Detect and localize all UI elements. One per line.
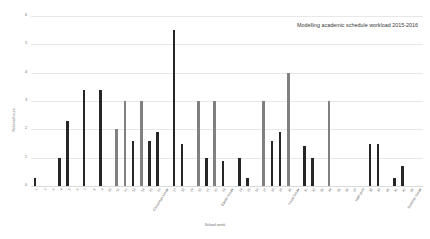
x-tick-label: 24 bbox=[239, 188, 244, 193]
x-tick-label: 20 bbox=[198, 188, 203, 193]
x-tick-label: 22 bbox=[214, 188, 219, 193]
x-tick-label: 19 bbox=[190, 188, 195, 193]
x-tick-label: 38 bbox=[369, 188, 374, 193]
x-tick-label: 11 bbox=[116, 188, 121, 193]
bar bbox=[238, 158, 241, 186]
bar bbox=[66, 121, 69, 186]
bar bbox=[34, 178, 37, 187]
bar bbox=[181, 144, 184, 187]
bar bbox=[303, 146, 306, 186]
y-tick-label: 0 bbox=[25, 184, 27, 188]
bar bbox=[262, 101, 265, 186]
x-tick-label: 1 bbox=[35, 188, 39, 191]
bar-series bbox=[31, 16, 423, 186]
x-tick-label: 18 bbox=[181, 188, 186, 193]
x-tick-label: Christmas break bbox=[153, 188, 170, 212]
bar bbox=[140, 101, 143, 186]
bar bbox=[401, 166, 404, 186]
x-tick-label: 23 bbox=[222, 188, 227, 193]
y-tick-label: 2 bbox=[25, 128, 27, 132]
bar bbox=[205, 158, 208, 186]
x-tick-label: 14 bbox=[141, 188, 146, 193]
x-tick-label: 42 bbox=[402, 188, 407, 193]
x-tick-label: 4 bbox=[60, 188, 64, 191]
bar bbox=[369, 144, 372, 187]
x-tick-label: 26 bbox=[255, 188, 260, 193]
x-tick-label: 39 bbox=[377, 188, 382, 193]
x-tick-label: 33 bbox=[320, 188, 325, 193]
bar bbox=[156, 132, 159, 186]
x-tick-label: 17 bbox=[173, 188, 178, 193]
bar bbox=[246, 178, 249, 187]
y-tick-label: 3 bbox=[25, 99, 27, 103]
y-tick-label: 4 bbox=[25, 71, 27, 75]
bar bbox=[83, 90, 86, 186]
bar bbox=[99, 90, 102, 186]
x-tick-label: 28 bbox=[271, 188, 276, 193]
bar bbox=[393, 178, 396, 187]
x-tick-label: 15 bbox=[149, 188, 154, 193]
plot-area bbox=[31, 16, 423, 186]
bar bbox=[197, 101, 200, 186]
x-tick-label: 27 bbox=[263, 188, 268, 193]
bar bbox=[132, 141, 135, 186]
x-tick-label: 30 bbox=[288, 188, 293, 193]
x-tick-label: 5 bbox=[68, 188, 72, 191]
x-tick-label: 32 bbox=[312, 188, 317, 193]
x-tick-label: 34 bbox=[328, 188, 333, 193]
x-tick-label: 41 bbox=[394, 188, 399, 193]
y-axis-tick-labels: 0123456 bbox=[0, 16, 30, 186]
x-tick-label: 36 bbox=[345, 188, 350, 193]
x-tick-label: 16 bbox=[157, 188, 162, 193]
x-tick-label: 21 bbox=[206, 188, 211, 193]
bar bbox=[115, 129, 118, 186]
bar bbox=[148, 141, 151, 186]
bar bbox=[173, 30, 176, 186]
y-tick-label: 1 bbox=[25, 156, 27, 160]
x-tick-label: 10 bbox=[108, 188, 113, 193]
bar bbox=[279, 132, 282, 186]
bar bbox=[311, 158, 314, 186]
y-tick-label: 6 bbox=[25, 14, 27, 18]
chart-container: Modelling academic schedule workload 201… bbox=[0, 0, 430, 239]
x-tick-label: 6 bbox=[76, 188, 80, 191]
x-tick-label: 13 bbox=[132, 188, 137, 193]
x-tick-label: 2 bbox=[44, 188, 48, 191]
x-tick-label: 25 bbox=[247, 188, 252, 193]
bar bbox=[222, 161, 225, 187]
x-axis-title: School week bbox=[0, 223, 430, 227]
bar bbox=[124, 101, 127, 186]
x-tick-label: 29 bbox=[279, 188, 284, 193]
bar bbox=[328, 101, 331, 186]
x-tick-label: 43 bbox=[410, 188, 415, 193]
bar bbox=[287, 73, 290, 186]
bar bbox=[271, 141, 274, 186]
x-tick-label: 3 bbox=[52, 188, 56, 191]
bar bbox=[58, 158, 61, 186]
y-tick-label: 5 bbox=[25, 43, 27, 47]
x-tick-label: 40 bbox=[386, 188, 391, 193]
x-tick-label: 12 bbox=[124, 188, 129, 193]
x-tick-label: 7 bbox=[84, 188, 88, 191]
x-tick-label: 9 bbox=[101, 188, 105, 191]
x-tick-label: 35 bbox=[337, 188, 342, 193]
gridline bbox=[31, 186, 423, 187]
bar bbox=[213, 101, 216, 186]
x-axis-tick-labels: 12345678910111213141516Christmas break17… bbox=[31, 188, 423, 234]
bar bbox=[377, 144, 380, 187]
x-tick-label: 31 bbox=[304, 188, 309, 193]
x-tick-label: 8 bbox=[93, 188, 97, 191]
x-tick-label: 37 bbox=[353, 188, 358, 193]
